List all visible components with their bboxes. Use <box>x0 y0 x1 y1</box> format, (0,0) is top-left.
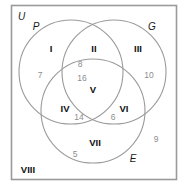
set-label-e: E <box>130 153 137 164</box>
venn-canvas: U P G E I II III IV V VI VII VIII 7 8 10… <box>0 0 188 191</box>
set-label-g: G <box>148 21 156 32</box>
count-region-i: 7 <box>38 70 43 80</box>
region-label-v: V <box>90 84 97 95</box>
count-region-iv: 14 <box>74 112 84 122</box>
region-label-vi: VI <box>120 103 129 114</box>
region-label-vii: VII <box>89 137 101 148</box>
count-region-viii: 9 <box>154 134 159 144</box>
region-label-iv: IV <box>61 103 71 114</box>
count-region-iii: 10 <box>144 70 154 80</box>
region-label-ii: II <box>91 43 96 54</box>
region-label-viii: VIII <box>21 164 35 175</box>
circle-p <box>19 20 123 124</box>
venn-diagram: U P G E I II III IV V VI VII VIII 7 8 10… <box>0 0 188 191</box>
count-region-ii: 8 <box>78 59 83 69</box>
count-region-vii: 5 <box>73 149 78 159</box>
count-region-vi: 6 <box>111 112 116 122</box>
region-label-i: I <box>50 43 53 54</box>
set-label-p: P <box>33 21 40 32</box>
region-label-iii: III <box>134 43 142 54</box>
count-region-v: 16 <box>77 73 87 83</box>
universe-label: U <box>18 11 26 22</box>
